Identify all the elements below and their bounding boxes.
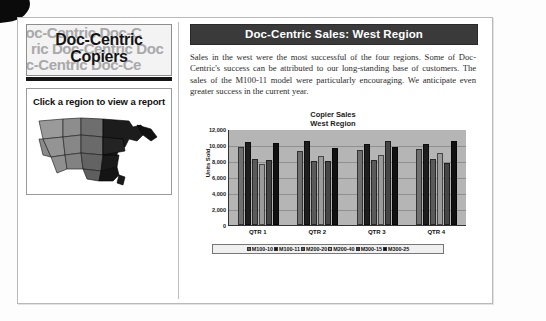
chart-bar [325,161,331,225]
chart-bar [273,143,279,225]
chart-bar [423,144,429,225]
y-tick-label: 8,000 [212,159,226,165]
legend-label: M300-25 [388,246,409,252]
chart-bar [444,163,450,225]
y-axis-tick-labels: 12,00010,0008,0006,0004,0002,0000 [198,130,226,226]
chart-bar [371,160,377,225]
us-region-map[interactable] [33,111,167,189]
legend-item: M300-15 [356,246,382,252]
legend-swatch [274,247,278,251]
chart-bar [392,147,398,225]
map-instruction-label: Click a region to view a report [27,96,171,107]
brand-title: Doc-Centric Copiers [27,31,171,65]
map-region-west[interactable] [39,118,83,173]
brand-title-line-1: Doc-Centric [27,31,171,48]
document-page: Doc-Centric Doc-C ric Doc-Centric Doc oc… [17,17,493,304]
legend-swatch [356,247,360,251]
chart-block: Copier Sales West Region Units Sold 12,0… [190,108,476,263]
map-panel: Click a region to view a report [26,88,172,195]
y-tick-label: 0 [223,223,226,229]
chart-bar [357,150,363,224]
report-body-text: Sales in the west were the most successf… [190,52,478,98]
chart-bar [378,155,384,225]
chart-bar [266,160,272,225]
chart-title-main: Copier Sales [190,110,476,119]
legend-item: M300-25 [383,246,409,252]
chart-bar [416,149,422,224]
chart-plot-area [228,130,466,226]
brand-title-line-2: Copiers [27,48,171,65]
chart-plot-wrapper: Units Sold 12,00010,0008,0006,0004,0002,… [190,130,476,242]
chart-bar [297,151,303,225]
map-region-central[interactable] [81,118,103,181]
right-column: Doc-Centric Sales: West Region Sales in … [190,24,478,263]
legend-label: M200-40 [333,246,354,252]
chart-bar [437,153,443,224]
legend-item: M200-40 [328,246,354,252]
bar-group [416,130,457,225]
left-column: Doc-Centric Doc-C ric Doc-Centric Doc oc… [26,24,172,195]
x-axis-tick-labels: QTR 1QTR 2QTR 3QTR 4 [228,229,466,241]
chart-bar [245,142,251,224]
map-region-east[interactable] [99,119,157,185]
scanned-page-canvas: Doc-Centric Doc-C ric Doc-Centric Doc oc… [0,0,546,321]
x-tick-label: QTR 3 [368,229,386,235]
legend-item: M200-20 [301,246,327,252]
chart-title: Copier Sales West Region [190,108,476,128]
column-divider [178,22,179,299]
legend-swatch [328,247,332,251]
chart-bar [385,141,391,224]
legend-label: M300-15 [361,246,382,252]
chart-bar [238,147,244,225]
y-tick-label: 10,000 [209,143,226,149]
chart-legend: M100-10M100-11M200-20M200-40M300-15M300-… [212,244,444,254]
legend-swatch [383,247,387,251]
y-tick-label: 6,000 [212,175,226,181]
chart-bar [252,159,258,225]
legend-label: M100-11 [279,246,300,252]
x-tick-label: QTR 4 [427,229,445,235]
chart-bar [430,159,436,225]
brand-underline [26,77,172,81]
chart-bar [304,141,310,224]
legend-swatch [301,247,305,251]
legend-item: M100-10 [247,246,273,252]
y-tick-label: 12,000 [209,127,226,133]
chart-bar [318,156,324,225]
brand-banner: Doc-Centric Doc-C ric Doc-Centric Doc oc… [26,24,172,76]
chart-bar [311,161,317,225]
report-title: Doc-Centric Sales: West Region [190,24,478,45]
x-tick-label: QTR 2 [308,229,326,235]
chart-bar [259,164,265,225]
chart-subtitle: West Region [190,119,476,128]
chart-bar [364,144,370,225]
legend-item: M100-11 [274,246,300,252]
chart-bar [332,148,338,225]
chart-bar [451,141,457,224]
y-tick-label: 2,000 [212,207,226,213]
legend-swatch [247,247,251,251]
y-tick-label: 4,000 [212,191,226,197]
legend-label: M100-10 [252,246,273,252]
x-tick-label: QTR 1 [249,229,267,235]
bar-group [238,130,279,225]
bar-group [357,130,398,225]
bar-group [297,130,338,225]
legend-label: M200-20 [306,246,327,252]
